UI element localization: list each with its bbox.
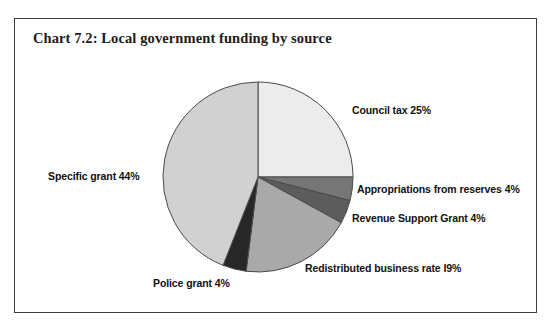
pie-slices: [163, 82, 353, 272]
pie-label-specific-grant: Specific grant 44%: [48, 170, 140, 182]
pie-slice-council-tax: [258, 82, 353, 177]
pie-label-redistributed-business-rate: Redistributed business rate I9%: [305, 262, 461, 274]
chart-screenshot: Chart 7.2: Local government funding by s…: [0, 0, 559, 330]
pie-label-council-tax: Council tax 25%: [352, 104, 431, 116]
pie-chart: [0, 0, 559, 330]
pie-label-appropriations-from-reserves: Appropriations from reserves 4%: [357, 183, 520, 195]
pie-label-police-grant: Police grant 4%: [153, 277, 230, 289]
pie-chart-svg: [0, 0, 559, 330]
pie-label-revenue-support-grant: Revenue Support Grant 4%: [352, 212, 486, 224]
